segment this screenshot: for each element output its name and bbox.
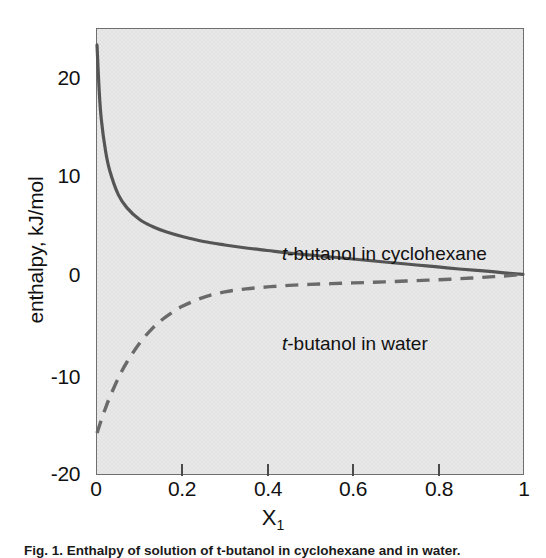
y-tick-label-neg10: -10 — [4, 365, 80, 389]
series-label-water: t-butanol in water — [282, 333, 428, 355]
figure-panel: enthalpy, kJ/mol 20 10 0 -10 -20 t-butan… — [0, 0, 546, 558]
series-label-cyclohexane-rest: -butanol in cyclohexane — [287, 243, 487, 264]
x-tick-label-0p4: 0.4 — [228, 477, 308, 501]
x-tick-label-0p2: 0.2 — [142, 477, 222, 501]
x-tick-label-1: 1 — [484, 477, 546, 501]
x-tick-mark-0p4 — [267, 464, 269, 476]
x-tick-label-0p6: 0.6 — [313, 477, 393, 501]
y-tick-label-10: 10 — [4, 164, 80, 188]
x-axis-title: X1 — [0, 505, 546, 531]
x-axis-title-subscript: 1 — [276, 517, 284, 533]
series-label-cyclohexane: t-butanol in cyclohexane — [282, 243, 487, 265]
x-tick-label-0p8: 0.8 — [399, 477, 479, 501]
y-tick-label-0: 0 — [4, 263, 80, 287]
y-axis-title: enthalpy, kJ/mol — [24, 120, 48, 380]
plot-area: t-butanol in cyclohexane t-butanol in wa… — [96, 28, 524, 475]
series-label-water-rest: -butanol in water — [287, 333, 427, 354]
series-line-cyclohexane — [97, 45, 523, 274]
x-axis-title-base: X — [262, 505, 277, 530]
y-tick-label-20: 20 — [4, 66, 80, 90]
x-tick-label-0: 0 — [56, 477, 136, 501]
x-tick-mark-0p2 — [181, 464, 183, 476]
x-tick-mark-0p8 — [438, 464, 440, 476]
figure-caption: Fig. 1. Enthalpy of solution of t-butano… — [24, 543, 524, 558]
x-tick-mark-0p6 — [352, 464, 354, 476]
